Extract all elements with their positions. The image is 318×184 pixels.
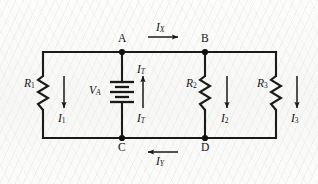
label-r2-subscript: 2 [193,81,197,90]
node-dot-b [202,49,208,55]
label-i3-subscript: 3 [295,116,299,125]
label-va-subscript: A [96,88,101,97]
label-r2: R2 [186,78,197,90]
label-r1-text: R [24,77,31,89]
label-it-top: IT [137,64,145,76]
label-r1: R1 [24,78,35,90]
label-va-text: V [89,84,96,96]
label-r2-text: R [186,77,193,89]
node-label-c: C [118,142,126,154]
label-i1: I1 [58,113,66,125]
label-it-bottom: IT [137,113,145,125]
circuit-diagram-figure: A B C D R1 R2 R3 VA IX IY I1 I2 I3 IT IT [0,0,318,184]
label-i2-subscript: 2 [225,116,229,125]
label-r3: R3 [257,78,268,90]
label-va: VA [89,85,101,97]
resistor-r1-symbol [38,76,48,110]
label-iy: IY [156,156,164,168]
label-ix-subscript: X [160,25,165,34]
label-r3-text: R [257,77,264,89]
label-r3-subscript: 3 [264,81,268,90]
resistor-r2-symbol [200,76,210,110]
battery-va-symbol [110,82,134,102]
label-i1-subscript: 1 [62,116,66,125]
label-i3: I3 [291,113,299,125]
label-it-bottom-subscript: T [141,116,145,125]
label-ix: IX [156,22,164,34]
label-i2: I2 [221,113,229,125]
resistor-r3-symbol [271,76,281,110]
label-iy-subscript: Y [160,159,164,168]
label-it-top-subscript: T [141,67,145,76]
node-dot-a [119,49,125,55]
node-label-d: D [201,142,209,154]
node-label-b: B [201,33,209,45]
label-r1-subscript: 1 [31,81,35,90]
node-label-a: A [118,33,126,45]
